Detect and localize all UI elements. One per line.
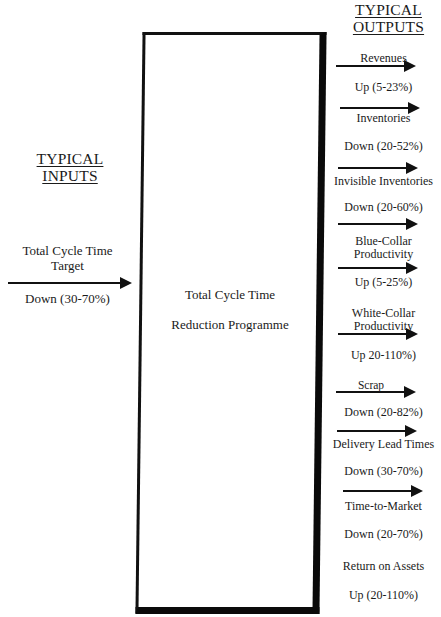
- output-label-time-to-market: Time-to-Market: [326, 499, 441, 513]
- arrow-shaft: [338, 333, 408, 335]
- output-label-invisible-inventories: Invisible Inventories: [326, 174, 441, 188]
- arrow-shaft: [338, 167, 408, 169]
- input-label-line2: Target: [0, 259, 135, 273]
- output-value-return-on-assets: Up (20-110%): [326, 588, 441, 602]
- output-arrow-blue-collar: [338, 218, 418, 230]
- arrow-right-icon: [120, 277, 132, 289]
- arrow-right-icon: [406, 262, 418, 274]
- inputs-heading-line1: TYPICAL: [20, 150, 120, 167]
- arrow-shaft: [337, 430, 407, 432]
- output-arrow-invisible-inventories: [338, 162, 418, 174]
- outputs-heading-line1: TYPICAL: [336, 1, 441, 18]
- arrow-right-icon: [406, 328, 418, 340]
- output-arrow-blue-collar-2: [338, 262, 418, 274]
- input-arrow-shaft: [8, 282, 122, 284]
- output-label-blue-collar-line1: Blue-Collar: [326, 234, 441, 248]
- output-label-blue-collar-line2: Productivity: [326, 247, 441, 261]
- output-value-scrap: Down (20-82%): [326, 405, 441, 419]
- output-value-invisible-inventories: Down (20-60%): [326, 200, 441, 214]
- output-label-inventories: Inventories: [326, 111, 441, 125]
- output-value-delivery: Down (30-70%): [326, 464, 441, 478]
- arrow-shaft: [338, 223, 408, 225]
- process-title-line1: Total Cycle Time: [145, 288, 315, 302]
- output-label-revenues: Revenues: [326, 51, 441, 65]
- output-label-scrap: Scrap: [326, 378, 416, 392]
- arrow-shaft: [343, 490, 413, 492]
- output-value-time-to-market: Down (20-70%): [326, 527, 441, 541]
- arrow-right-icon: [411, 485, 423, 497]
- inputs-heading-line2: INPUTS: [20, 167, 120, 184]
- process-title-line2: Reduction Programme: [145, 318, 315, 332]
- output-arrow-white-collar: [338, 328, 418, 340]
- output-value-inventories: Down (20-52%): [326, 139, 441, 153]
- output-label-return-on-assets: Return on Assets: [326, 559, 441, 573]
- outputs-heading-line2: OUTPUTS: [336, 18, 441, 35]
- output-value-blue-collar: Up (5-25%): [326, 275, 441, 289]
- output-value-white-collar: Up 20-110%): [326, 348, 441, 362]
- output-label-delivery: Delivery Lead Times: [326, 437, 441, 451]
- arrow-right-icon: [406, 218, 418, 230]
- input-label-line1: Total Cycle Time: [0, 244, 135, 258]
- arrow-shaft: [338, 267, 408, 269]
- arrow-shaft: [340, 107, 410, 109]
- output-arrow-time-to-market: [343, 485, 423, 497]
- input-arrow: [8, 277, 132, 289]
- output-label-white-collar-line1: White-Collar: [326, 306, 441, 320]
- inputs-heading: TYPICAL INPUTS: [20, 150, 120, 184]
- arrow-right-icon: [406, 162, 418, 174]
- input-value: Down (30-70%): [0, 292, 135, 306]
- output-value-revenues: Up (5-23%): [326, 80, 441, 94]
- arrow-right-icon: [405, 425, 417, 437]
- output-arrow-delivery: [337, 425, 417, 437]
- arrow-shaft: [336, 65, 406, 67]
- outputs-heading: TYPICAL OUTPUTS: [336, 1, 441, 35]
